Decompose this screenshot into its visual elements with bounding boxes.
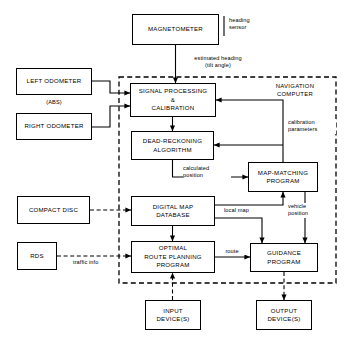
box-guidance-program-label: GUIDANCE PROGRAM bbox=[267, 249, 301, 266]
box-input-device-label: INPUT DEVICE(S) bbox=[156, 307, 189, 324]
box-optimal-route-planning: OPTIMAL ROUTE PLANNING PROGRAM bbox=[131, 241, 215, 273]
box-digital-map-database-label: DIGITAL MAP DATABASE bbox=[153, 203, 194, 220]
box-right-odometer-label: RIGHT ODOMETER bbox=[24, 122, 83, 130]
calibration-parameters-label: calibration parameters bbox=[288, 119, 336, 134]
vehicle-position-label: vehicle position bbox=[288, 203, 324, 218]
edge-right-odometer-to-signal bbox=[92, 106, 130, 127]
box-digital-map-database: DIGITAL MAP DATABASE bbox=[131, 196, 215, 226]
box-map-matching: MAP-MATCHING PROGRAM bbox=[248, 162, 318, 192]
abs-note: (ABS) bbox=[16, 99, 92, 106]
edge-local-map-to-guidance bbox=[215, 218, 262, 243]
edge-left-odometer-to-signal bbox=[92, 81, 130, 93]
box-right-odometer: RIGHT ODOMETER bbox=[16, 113, 92, 140]
calculated-position-label: calculated position bbox=[183, 165, 231, 180]
box-left-odometer-label: LEFT ODOMETER bbox=[27, 77, 82, 85]
box-compact-disc: COMPACT DISC bbox=[17, 196, 90, 224]
box-signal-processing-label: SIGNAL PROCESSING & CALIBRATION bbox=[139, 87, 208, 112]
box-dead-reckoning-label: DEAD-RECKONING ALGORITHM bbox=[143, 137, 202, 154]
box-rds: RDS bbox=[17, 242, 57, 270]
diagram-canvas: MAGNETOMETER LEFT ODOMETER RIGHT ODOMETE… bbox=[0, 0, 345, 351]
box-magnetometer: MAGNETOMETER bbox=[132, 14, 219, 45]
box-input-device: INPUT DEVICE(S) bbox=[145, 300, 201, 330]
box-signal-processing: SIGNAL PROCESSING & CALIBRATION bbox=[130, 83, 216, 117]
edge-local-map-to-map-matching bbox=[215, 192, 283, 205]
estimated-heading-label: estimated heading (tilt angle) bbox=[178, 55, 258, 70]
box-left-odometer: LEFT ODOMETER bbox=[16, 68, 92, 95]
route-label: route bbox=[218, 248, 246, 255]
box-output-device: OUTPUT DEVICE(S) bbox=[256, 300, 312, 330]
box-output-device-label: OUTPUT DEVICE(S) bbox=[267, 307, 300, 324]
box-guidance-program: GUIDANCE PROGRAM bbox=[250, 243, 318, 272]
traffic-info-label: traffic info bbox=[73, 259, 117, 266]
box-optimal-route-planning-label: OPTIMAL ROUTE PLANNING PROGRAM bbox=[144, 244, 202, 269]
box-dead-reckoning: DEAD-RECKONING ALGORITHM bbox=[131, 131, 214, 160]
heading-sensor-label: heading sensor bbox=[229, 17, 275, 32]
box-map-matching-label: MAP-MATCHING PROGRAM bbox=[258, 169, 308, 186]
navigation-computer-label: NAVIGATION COMPUTER bbox=[262, 83, 328, 99]
heading-sensor-bracket bbox=[221, 16, 227, 36]
local-map-label: local map bbox=[224, 207, 262, 214]
box-rds-label: RDS bbox=[30, 252, 44, 260]
box-compact-disc-label: COMPACT DISC bbox=[29, 206, 78, 214]
box-magnetometer-label: MAGNETOMETER bbox=[148, 25, 203, 33]
edge-calibration-parameters bbox=[216, 100, 283, 162]
